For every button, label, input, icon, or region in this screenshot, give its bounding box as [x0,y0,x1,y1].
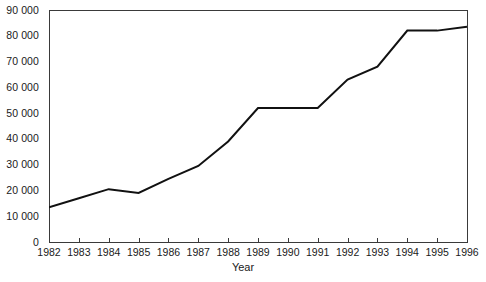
x-tick-mark [79,238,80,243]
y-tick-label: 70 000 [6,56,39,67]
y-tick-label: 10 000 [6,211,39,222]
x-tick-mark [288,238,289,243]
x-tick-mark [437,238,438,243]
y-tick-label: 40 000 [6,133,39,144]
y-tick-label: 80 000 [6,30,39,41]
x-axis-title: Year [0,261,486,273]
x-tick-mark [318,238,319,243]
line-chart: 90 00080 00070 00060 00050 00040 00030 0… [0,0,486,282]
x-tick-label: 1996 [447,247,486,258]
plot-area [49,10,468,243]
y-tick-label: 20 000 [6,185,39,196]
x-tick-mark [198,238,199,243]
y-tick-label: 30 000 [6,159,39,170]
x-tick-mark [109,238,110,243]
x-tick-mark [139,238,140,243]
y-tick-label: 90 000 [6,5,39,16]
data-series-line [49,27,467,207]
x-tick-mark [168,238,169,243]
x-tick-mark [258,238,259,243]
y-tick-label: 60 000 [6,82,39,93]
x-tick-mark [377,238,378,243]
y-tick-label: 50 000 [6,108,39,119]
x-tick-mark [228,238,229,243]
x-tick-mark [407,238,408,243]
x-tick-mark [348,238,349,243]
